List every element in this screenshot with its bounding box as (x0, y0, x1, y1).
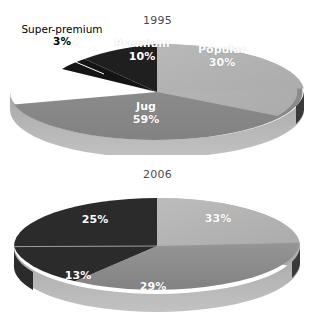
slice-label-jug: Jug 59% (118, 101, 174, 126)
slice-label-popular: Popular 30% (186, 44, 258, 69)
slice-label-premium-name: Premium (114, 37, 169, 50)
pie-slice-divider-2006 (14, 246, 157, 247)
pie-chart-1995: 1995 (0, 0, 315, 160)
chart-title-2006: 2006 (0, 168, 315, 181)
slice-label-2006-33: 33% (196, 213, 240, 226)
slice-label-popular-pct: 30% (186, 57, 258, 70)
slice-label-super-premium-pct: 3% (14, 35, 110, 47)
slice-label-2006-13-pct: 13% (56, 270, 100, 283)
pie-svg-2006 (0, 186, 315, 314)
slice-label-2006-25: 25% (73, 214, 117, 227)
slice-label-2006-25-pct: 25% (73, 214, 117, 227)
pie-chart-2006: 2006 (0, 160, 315, 317)
slice-label-premium: Premium 10% (106, 38, 178, 63)
slice-label-super-premium: Super-premium 3% (14, 23, 110, 47)
slice-label-jug-name: Jug (136, 100, 156, 113)
slice-label-jug-pct: 59% (118, 114, 174, 127)
slice-label-premium-pct: 10% (106, 51, 178, 64)
slice-label-popular-name: Popular (198, 43, 246, 56)
slice-label-2006-29-pct: 29% (131, 281, 175, 294)
slice-label-2006-13: 13% (56, 270, 100, 283)
slice-label-super-premium-name: Super-premium (21, 23, 102, 35)
pie-graphic-2006 (0, 186, 315, 314)
slice-label-2006-33-pct: 33% (196, 213, 240, 226)
slice-label-2006-29: 29% (131, 281, 175, 294)
